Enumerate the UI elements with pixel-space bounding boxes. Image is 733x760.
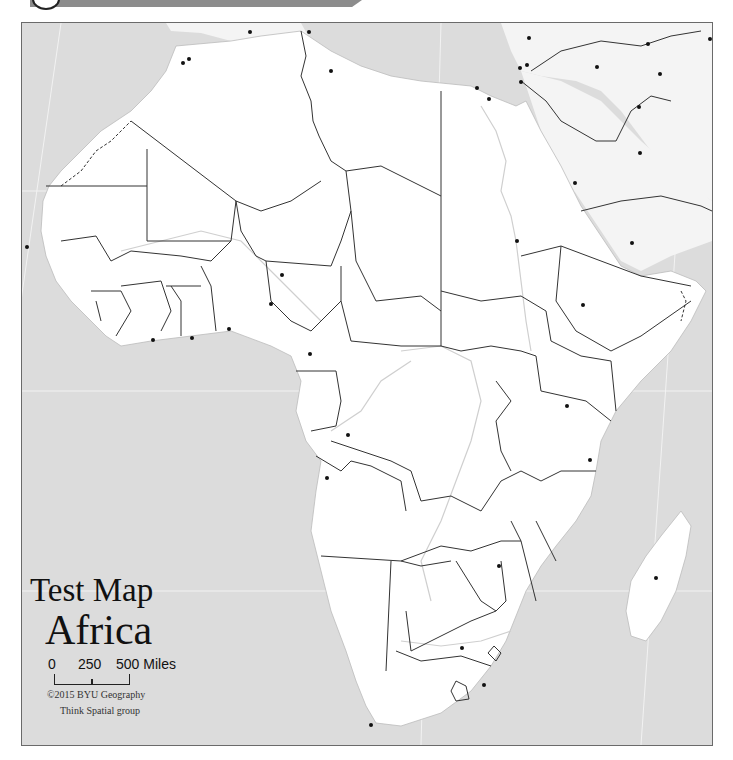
scale-bar-midtick [91, 679, 93, 684]
banner-circle-icon [32, 0, 60, 10]
credit-line-1: ©2015 BYU Geography [47, 689, 230, 700]
credit-line-2: Think Spatial group [60, 705, 230, 716]
scale-bar [54, 674, 130, 685]
header-banner [30, 0, 362, 7]
map-subtitle: Africa [45, 608, 230, 652]
scale-label-0: 0 [48, 656, 56, 672]
scale-label-250: 250 [78, 656, 101, 672]
scale-labels: 0 250 500 Miles [30, 656, 230, 674]
scale-label-500: 500 Miles [116, 656, 176, 672]
map-legend: Test Map Africa 0 250 500 Miles ©2015 BY… [30, 572, 230, 716]
madagascar [626, 511, 691, 641]
map-title: Test Map [30, 572, 230, 608]
